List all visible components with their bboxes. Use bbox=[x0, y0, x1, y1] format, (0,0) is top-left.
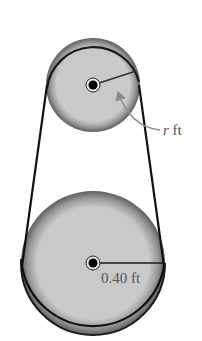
small-radius-label: r ft bbox=[163, 122, 183, 138]
large-pulley-axle bbox=[89, 259, 98, 268]
small-radius-unit: ft bbox=[169, 122, 183, 138]
large-radius-label: 0.40 ft bbox=[101, 270, 141, 286]
small-pulley-axle bbox=[89, 81, 98, 90]
small-pulley bbox=[46, 38, 140, 132]
large-pulley bbox=[21, 191, 165, 335]
pulley-diagram: r ft 0.40 ft bbox=[0, 0, 202, 341]
